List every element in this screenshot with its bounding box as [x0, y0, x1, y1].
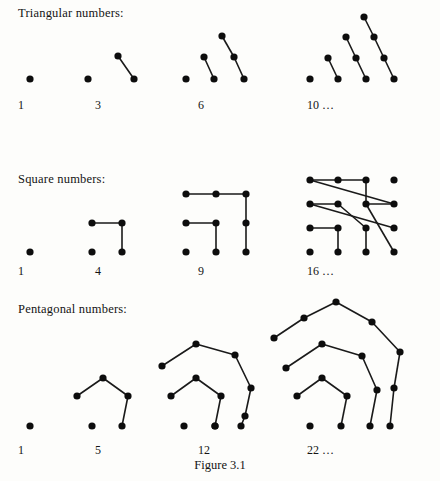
figure-dot [242, 190, 249, 197]
figure-dot [306, 200, 313, 207]
figure-label-pentagonal-12: 12 [198, 443, 210, 458]
figure-dot [210, 75, 217, 82]
figure-dot [390, 224, 397, 231]
figure-edge [235, 355, 251, 388]
figure-dot [334, 176, 341, 183]
figure-dot [352, 54, 359, 61]
figure-edge [122, 396, 128, 426]
figure-dot [270, 334, 277, 341]
figure-label-triangular-1: 1 [18, 98, 24, 113]
figure-dot [180, 422, 187, 429]
figure-dot [332, 298, 339, 305]
figure-square-1 [16, 180, 56, 260]
figure-dot [342, 33, 349, 40]
figure-dot [182, 190, 189, 197]
figure-dot [242, 219, 249, 226]
figure-dot [99, 374, 106, 381]
figure-edge [336, 302, 372, 322]
figure-label-square-1: 1 [18, 264, 24, 279]
section-heading-triangular: Triangular numbers: [18, 6, 124, 21]
figure-label-pentagonal-1: 1 [18, 443, 24, 458]
figure-dot [240, 75, 247, 82]
figure-dot [230, 53, 237, 60]
figure-dot [362, 75, 369, 82]
figure-pentagonal-5 [78, 310, 148, 438]
figure-edge [338, 204, 366, 228]
figure-label-triangular-3: 3 [95, 98, 101, 113]
figure-dot [358, 352, 365, 359]
figure-dot [300, 314, 307, 321]
figure-dot [386, 422, 393, 429]
figure-label-triangular-6: 6 [198, 98, 204, 113]
figure-label-square-9: 9 [198, 264, 204, 279]
figure-dot [362, 248, 369, 255]
figure-edge [304, 302, 336, 318]
figure-triangular-6 [174, 20, 254, 95]
figure-dot [334, 75, 341, 82]
figure-dot [343, 392, 350, 399]
figure-dot [118, 248, 125, 255]
figure-dot [334, 200, 341, 207]
figure-label-square-16: 16 … [307, 264, 334, 279]
figure-edge [196, 378, 221, 396]
figure-dot [390, 248, 397, 255]
figure-dot [306, 75, 313, 82]
figure-dot [182, 219, 189, 226]
figure-edge [245, 388, 251, 416]
figure-dot [26, 75, 33, 82]
figure-square-9 [174, 180, 254, 260]
figure-dot [306, 422, 313, 429]
figure-edge [171, 378, 196, 396]
figure-square-16 [300, 180, 400, 260]
figure-dot [368, 318, 375, 325]
figure-dot [390, 176, 397, 183]
figure-dot [380, 54, 387, 61]
figure-page: Triangular numbers:13610 …Square numbers… [0, 0, 440, 481]
figure-edge [118, 56, 134, 79]
figure-edge [297, 378, 322, 396]
figure-dot [130, 75, 137, 82]
figure-dot [231, 351, 238, 358]
figure-dot [334, 248, 341, 255]
figure-dot [396, 348, 403, 355]
figure-dot [124, 392, 131, 399]
figure-triangular-10 [300, 20, 405, 95]
figure-edge [362, 356, 377, 390]
figure-caption: Figure 3.1 [0, 458, 440, 473]
figure-dot [390, 75, 397, 82]
figure-dot [158, 362, 165, 369]
figure-dot [73, 392, 80, 399]
figure-edge [196, 344, 235, 355]
figure-dot [26, 248, 33, 255]
figure-dot [362, 224, 369, 231]
figure-dot [114, 52, 121, 59]
figure-edge [366, 204, 394, 252]
figure-pentagonal-22 [300, 310, 430, 438]
figure-dot [318, 374, 325, 381]
figure-dot [212, 219, 219, 226]
figure-dot [247, 384, 254, 391]
figure-dot [390, 384, 397, 391]
figure-edge [77, 378, 103, 396]
figure-dot [373, 386, 380, 393]
figure-label-triangular-10: 10 … [307, 98, 334, 113]
figure-dot [362, 200, 369, 207]
figure-dot [182, 75, 189, 82]
figure-edge [370, 390, 377, 426]
figure-dot [306, 176, 313, 183]
figure-dot [241, 412, 248, 419]
figure-edge [103, 378, 128, 396]
figure-dot [362, 176, 369, 183]
figure-dot [200, 53, 207, 60]
figure-dot [366, 422, 373, 429]
figure-dot [306, 224, 313, 231]
figure-dot [167, 392, 174, 399]
figure-edge [322, 344, 362, 356]
figure-edge [322, 378, 347, 396]
figure-pentagonal-12 [174, 310, 284, 438]
figure-pentagonal-1 [16, 310, 56, 438]
figure-dot [217, 392, 224, 399]
figure-label-pentagonal-22: 22 … [307, 443, 334, 458]
figure-dot [88, 422, 95, 429]
figure-edge [204, 57, 214, 79]
